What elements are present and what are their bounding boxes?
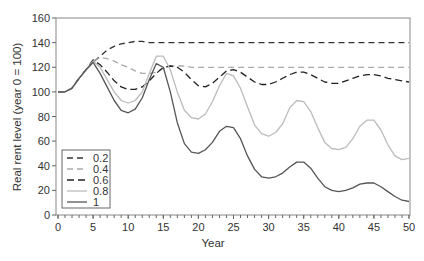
y-tick-label: 160 (32, 12, 50, 24)
x-tick-label: 45 (368, 221, 380, 233)
y-axis-title: Real rent level (year 0 = 100) (11, 43, 23, 192)
y-tick-label: 140 (32, 37, 50, 49)
y-tick-label: 20 (38, 184, 50, 196)
y-tick-label: 80 (38, 111, 50, 123)
x-tick-label: 15 (157, 221, 169, 233)
x-axis: 05101520253035404550 (55, 215, 415, 233)
y-tick-label: 40 (38, 160, 50, 172)
y-tick-label: 100 (32, 86, 50, 98)
x-tick-label: 5 (90, 221, 96, 233)
x-tick-label: 40 (333, 221, 345, 233)
y-tick-label: 0 (44, 209, 50, 221)
y-tick-label: 60 (38, 135, 50, 147)
y-tick-label: 120 (32, 61, 50, 73)
series-layer (58, 41, 409, 201)
legend-label: 1 (93, 196, 99, 208)
series-line-0-8 (58, 56, 409, 159)
line-chart: 020406080100120140160 051015202530354045… (0, 0, 424, 261)
x-tick-label: 35 (298, 221, 310, 233)
x-tick-label: 25 (227, 221, 239, 233)
x-tick-label: 30 (262, 221, 274, 233)
legend: 0.20.40.60.81 (62, 150, 110, 208)
x-tick-label: 50 (403, 221, 415, 233)
x-tick-label: 20 (192, 221, 204, 233)
x-tick-label: 10 (122, 221, 134, 233)
x-axis-title: Year (201, 237, 224, 249)
x-tick-label: 0 (55, 221, 61, 233)
y-axis: 020406080100120140160 (32, 12, 56, 221)
